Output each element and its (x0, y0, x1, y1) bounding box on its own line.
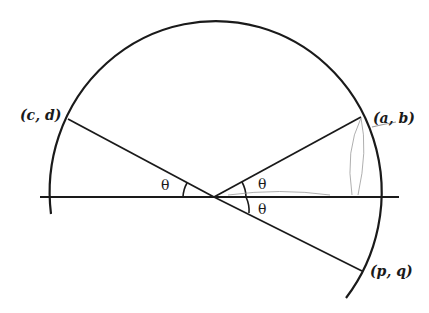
pencil-mark (358, 118, 364, 195)
point-label-ab: (a, b) (373, 110, 415, 126)
theta-label-upper-right: θ (258, 176, 266, 192)
theta-label-lower-right: θ (258, 201, 266, 217)
pencil-mark (228, 192, 330, 196)
point-label-cd: (c, d) (20, 107, 61, 123)
point-label-pq: (p, q) (370, 263, 413, 279)
radius-to-ab (214, 117, 361, 197)
radius-to-pq (214, 197, 362, 271)
radius-to-cd (68, 119, 214, 197)
pencil-mark (350, 118, 361, 195)
angle-arc-left (183, 183, 187, 197)
reflection-diagram: (c, d) (a, b) (p, q) θ θ θ (0, 0, 429, 313)
angle-arc-upper-right (242, 182, 246, 197)
angle-arc-lower-right (246, 197, 249, 213)
theta-label-left: θ (161, 177, 169, 193)
